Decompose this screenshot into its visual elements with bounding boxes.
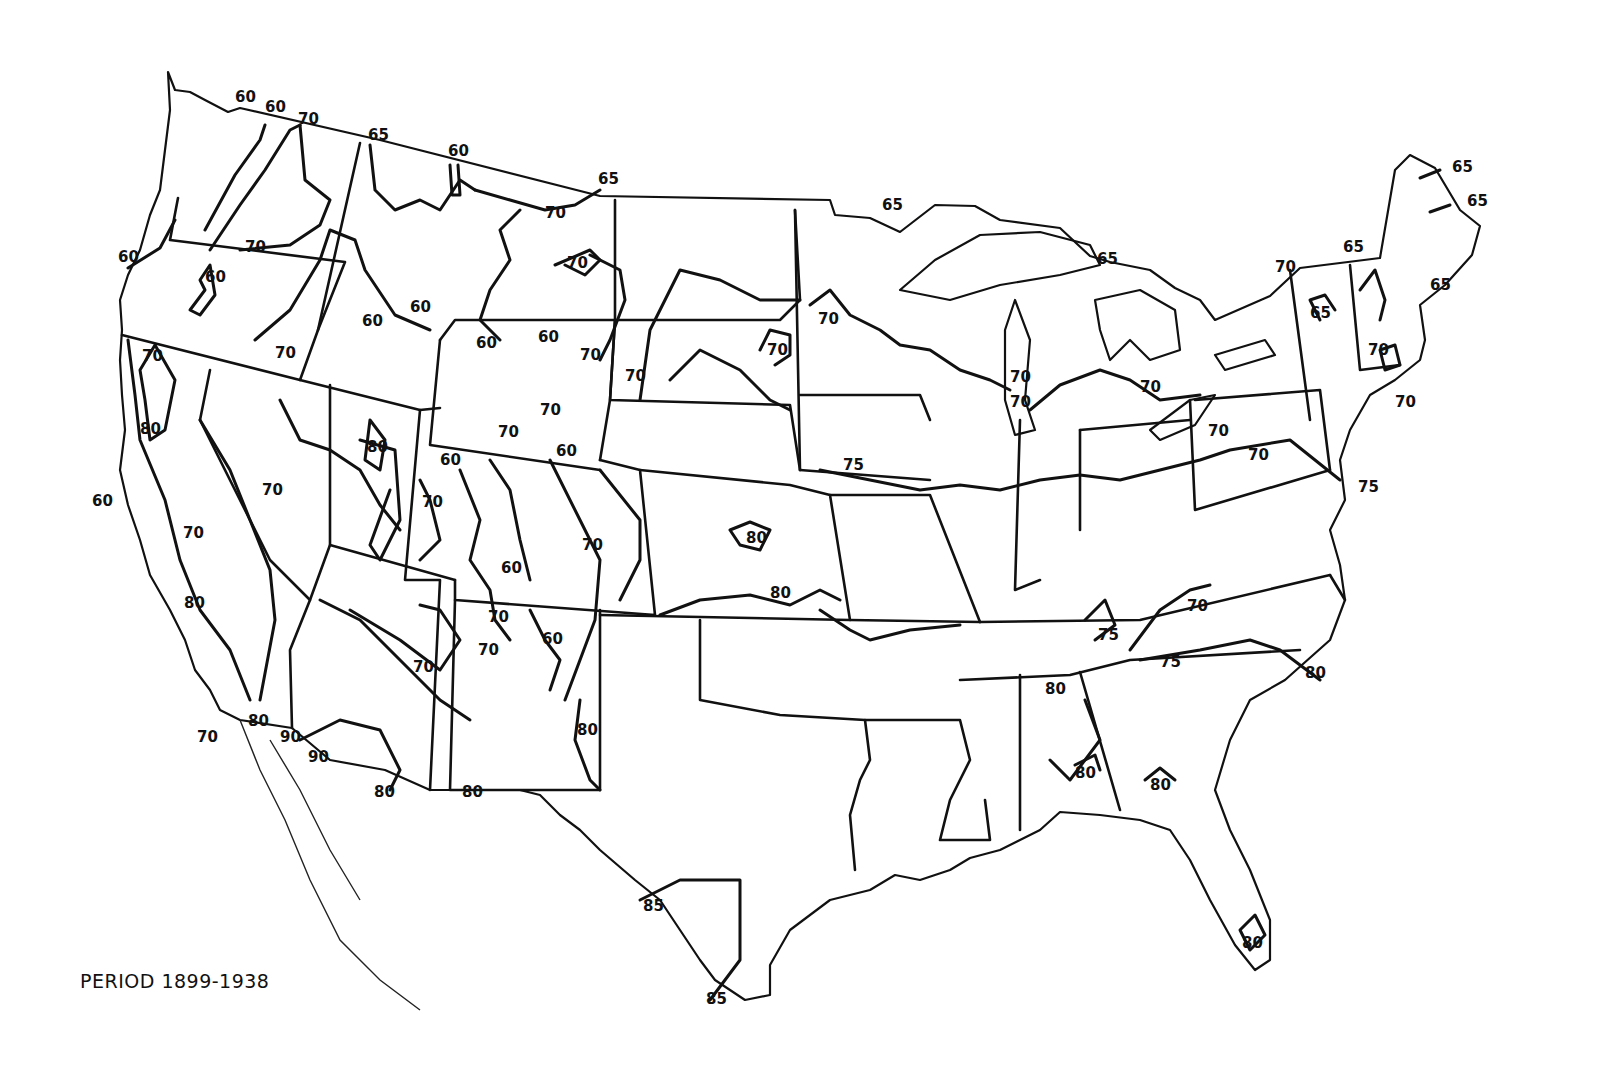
isoline-label: 70: [567, 254, 588, 272]
isoline-label: 60: [205, 268, 226, 286]
isoline-label: 65: [1467, 192, 1488, 210]
isoline-label: 65: [1097, 250, 1118, 268]
isoline-label: 70: [625, 367, 646, 385]
isoline-label: 80: [1150, 776, 1171, 794]
isoline-label: 65: [1310, 304, 1331, 322]
isoline-label: 70: [498, 423, 519, 441]
isoline-label: 70: [1395, 393, 1416, 411]
isoline-label: 80: [140, 420, 161, 438]
isoline-label: 90: [308, 748, 329, 766]
isoline-label: 70: [818, 310, 839, 328]
great-lakes: [900, 232, 1275, 440]
isoline-label: 80: [1242, 934, 1263, 952]
isoline-label: 80: [1305, 664, 1326, 682]
isoline-label: 80: [1075, 764, 1096, 782]
isoline-labels: 60 60 70 65 60 65 70 70 70 60 60 60 60 7…: [92, 88, 1488, 1008]
isoline-label: 85: [643, 897, 664, 915]
isoline-label: 70: [275, 344, 296, 362]
isoline-label: 60: [235, 88, 256, 106]
isoline-label: 70: [1187, 597, 1208, 615]
isoline-label: 80: [577, 721, 598, 739]
isoline-label: 70: [413, 658, 434, 676]
isoline-label: 70: [545, 204, 566, 222]
isoline-label: 60: [362, 312, 383, 330]
isoline-label: 75: [1098, 626, 1119, 644]
isoline-label: 70: [197, 728, 218, 746]
isoline-label: 75: [1160, 653, 1181, 671]
isoline-label: 60: [118, 248, 139, 266]
mexico-coast: [240, 720, 420, 1010]
isoline-label: 65: [598, 170, 619, 188]
isoline-label: 70: [183, 524, 204, 542]
isoline-label: 60: [410, 298, 431, 316]
isoline-label: 70: [767, 341, 788, 359]
isoline-label: 70: [1010, 368, 1031, 386]
isoline-label: 70: [422, 493, 443, 511]
isoline-label: 70: [1208, 422, 1229, 440]
isoline-label: 70: [488, 608, 509, 626]
isoline-label: 80: [367, 438, 388, 456]
isoline-label: 75: [1358, 478, 1379, 496]
isoline-label: 80: [1045, 680, 1066, 698]
isoline-label: 70: [298, 110, 319, 128]
isoline-label: 70: [1275, 258, 1296, 276]
isoline-label: 60: [501, 559, 522, 577]
isoline-label: 80: [770, 584, 791, 602]
isoline-label: 70: [262, 481, 283, 499]
isoline-label: 80: [374, 783, 395, 801]
isoline-label: 60: [542, 630, 563, 648]
isoline-label: 70: [1010, 393, 1031, 411]
isoline-label: 80: [248, 712, 269, 730]
period-caption: PERIOD 1899-1938: [80, 970, 269, 992]
isoline-label: 80: [184, 594, 205, 612]
isoline-label: 60: [476, 334, 497, 352]
isoline-label: 60: [556, 442, 577, 460]
isoline-label: 65: [1430, 276, 1451, 294]
isoline-label: 70: [1248, 446, 1269, 464]
isoline-label: 70: [1140, 378, 1161, 396]
isoline-label: 70: [478, 641, 499, 659]
isoline-label: 65: [882, 196, 903, 214]
isoline-label: 85: [706, 990, 727, 1008]
isoline-label: 70: [580, 346, 601, 364]
isoline-label: 65: [1452, 158, 1473, 176]
isoline-label: 70: [142, 347, 163, 365]
isolines: [128, 125, 1450, 1000]
isoline-label: 70: [540, 401, 561, 419]
isoline-label: 65: [1343, 238, 1364, 256]
isoline-label: 60: [538, 328, 559, 346]
isoline-label: 70: [245, 238, 266, 256]
isoline-label: 60: [265, 98, 286, 116]
isoline-label: 75: [843, 456, 864, 474]
isoline-map: 60 60 70 65 60 65 70 70 70 60 60 60 60 7…: [0, 0, 1621, 1074]
isoline-label: 65: [368, 126, 389, 144]
isoline-label: 70: [1368, 341, 1389, 359]
isoline-label: 90: [280, 728, 301, 746]
isoline-label: 60: [92, 492, 113, 510]
isoline-label: 60: [440, 451, 461, 469]
isoline-label: 80: [462, 783, 483, 801]
isoline-label: 70: [582, 536, 603, 554]
isoline-label: 80: [746, 529, 767, 547]
isoline-label: 60: [448, 142, 469, 160]
